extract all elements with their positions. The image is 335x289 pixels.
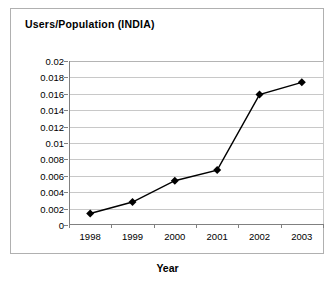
x-tick-mark	[281, 224, 282, 228]
x-tick-label: 1999	[122, 231, 143, 242]
gridline	[70, 159, 324, 160]
x-tick-label: 2003	[291, 231, 312, 242]
y-tick-mark	[64, 159, 68, 160]
gridline	[70, 176, 324, 177]
gridline	[70, 110, 324, 111]
y-tick-mark	[64, 127, 68, 128]
gridline	[70, 94, 324, 95]
y-tick-label: 0.02	[46, 56, 65, 67]
x-tick-mark	[238, 224, 239, 228]
y-tick-label: 0.018	[40, 72, 64, 83]
x-tick-mark	[111, 224, 112, 228]
plot-right-edge	[323, 61, 324, 225]
y-tick-label: 0.006	[40, 170, 64, 181]
x-axis-tick-labels: 199819992000200120022003	[69, 228, 323, 246]
plot-area-wrapper	[69, 61, 323, 225]
x-tick-mark	[69, 224, 70, 228]
x-tick-mark	[196, 224, 197, 228]
y-tick-label: 0.002	[40, 203, 64, 214]
x-tick-label: 2002	[249, 231, 270, 242]
x-tick-mark	[323, 224, 324, 228]
y-tick-label: 0.014	[40, 105, 64, 116]
y-tick-label: 0.004	[40, 187, 64, 198]
gridline	[70, 192, 324, 193]
y-tick-mark	[64, 61, 68, 62]
y-tick-mark	[64, 225, 68, 226]
x-tick-mark	[154, 224, 155, 228]
x-tick-label: 2000	[164, 231, 185, 242]
y-tick-mark	[64, 209, 68, 210]
y-tick-mark	[64, 110, 68, 111]
chart-frame: Users/Population (INDIA) 0.020.0180.0160…	[10, 8, 324, 254]
y-tick-label: 0.01	[46, 138, 65, 149]
y-tick-mark	[64, 143, 68, 144]
gridline	[70, 77, 324, 78]
plot-area	[69, 61, 323, 225]
x-tick-label: 2001	[207, 231, 228, 242]
y-tick-mark	[64, 176, 68, 177]
y-axis-tick-labels: 0.020.0180.0160.0140.0120.010.0080.0060.…	[11, 61, 64, 225]
gridline	[70, 143, 324, 144]
gridline	[70, 61, 324, 62]
x-axis-title: Year	[0, 262, 335, 274]
y-tick-label: 0.008	[40, 154, 64, 165]
y-tick-label: 0.016	[40, 88, 64, 99]
y-tick-mark	[64, 94, 68, 95]
gridline	[70, 209, 324, 210]
gridline	[70, 127, 324, 128]
y-tick-mark	[64, 77, 68, 78]
y-tick-mark	[64, 192, 68, 193]
x-tick-label: 1998	[80, 231, 101, 242]
y-tick-label: 0.012	[40, 121, 64, 132]
chart-title: Users/Population (INDIA)	[25, 18, 155, 30]
